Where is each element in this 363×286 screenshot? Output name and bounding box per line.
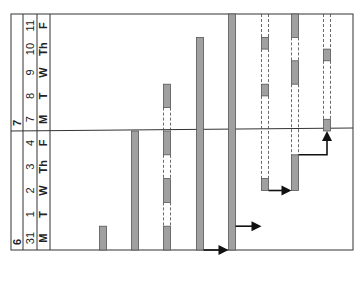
task-bar (324, 119, 331, 131)
weekday-label: M (37, 234, 49, 243)
task-row (197, 37, 204, 250)
date-label: 1 (24, 211, 36, 217)
task-row (164, 84, 171, 250)
week-divider (11, 128, 353, 131)
arrow-head-icon (219, 245, 229, 255)
arrow-head-icon (252, 221, 262, 231)
date-label: 2 (24, 187, 36, 193)
task-bar (164, 84, 171, 107)
weekday-label: W (37, 185, 49, 196)
dependency-arrows (204, 131, 333, 255)
dependency-arrow (269, 186, 292, 196)
weekday-label: F (37, 139, 49, 146)
date-label: 3 (24, 164, 36, 170)
task-bar (132, 131, 139, 250)
month-label: 6 (11, 239, 23, 245)
task-row (132, 131, 139, 250)
chart-frame (11, 14, 353, 250)
date-label: 8 (24, 93, 36, 99)
date-label: 10 (24, 43, 36, 55)
arrow-head-icon (282, 186, 292, 196)
task-bar (292, 61, 299, 84)
month-label: 7 (11, 120, 23, 126)
task-bars (100, 14, 331, 250)
task-bar (164, 179, 171, 203)
weekday-label: Th (37, 160, 49, 174)
task-bar (262, 37, 269, 49)
task-row (229, 14, 236, 250)
task-bar (262, 84, 269, 96)
task-row (292, 14, 299, 191)
date-label: 31 (24, 232, 36, 244)
header-labels: 6731M1T2W3Th4F7M8T9W10Th11F (11, 20, 49, 245)
date-label: 4 (24, 140, 36, 146)
task-bar (164, 226, 171, 250)
date-label: 11 (24, 20, 36, 31)
weekday-label: W (37, 67, 49, 78)
weekday-label: T (37, 92, 49, 99)
dependency-arrow (299, 131, 333, 155)
task-row (324, 14, 331, 131)
task-bar (262, 179, 269, 191)
date-label: 7 (24, 116, 36, 122)
weekday-label: M (37, 115, 49, 124)
task-bar (164, 131, 171, 155)
task-bar (229, 14, 236, 250)
weekday-label: F (37, 22, 49, 29)
task-bar (292, 155, 299, 191)
task-bar (292, 14, 299, 37)
task-bar (324, 49, 331, 61)
dependency-arrow (236, 221, 262, 231)
weekday-label: T (37, 211, 49, 218)
date-label: 9 (24, 69, 36, 75)
task-bar (197, 37, 204, 250)
arrow-head-icon (322, 131, 332, 141)
dependency-arrow (204, 245, 229, 255)
task-row (100, 226, 107, 250)
weekday-label: Th (37, 42, 49, 56)
task-bar (100, 226, 107, 250)
gantt-chart: 6731M1T2W3Th4F7M8T9W10Th11F (0, 0, 363, 286)
task-row (262, 14, 269, 191)
